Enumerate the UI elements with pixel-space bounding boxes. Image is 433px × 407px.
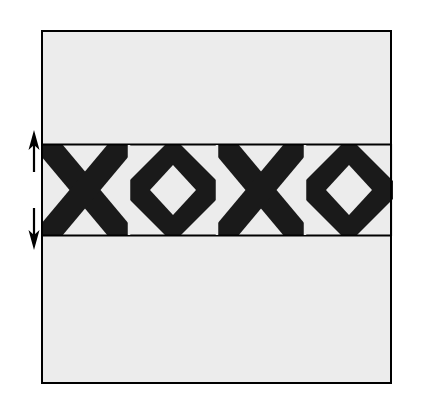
band-cell-diamond-o-2 bbox=[305, 144, 393, 236]
figure-container bbox=[0, 0, 433, 407]
band-cell-diamond-o-1 bbox=[129, 144, 217, 236]
patent-figure-drawing bbox=[0, 0, 433, 407]
